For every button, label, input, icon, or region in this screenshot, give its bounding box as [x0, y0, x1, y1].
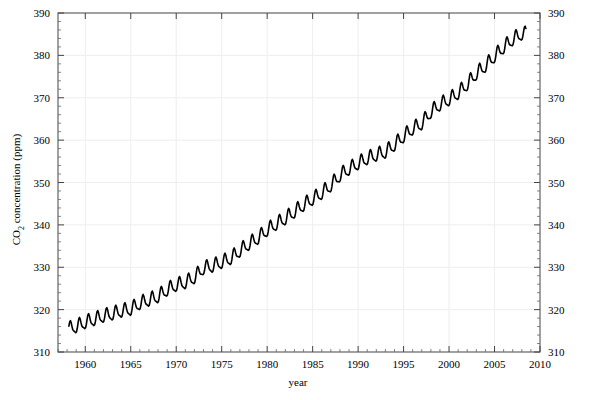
svg-text:320: 320: [548, 304, 565, 316]
svg-text:360: 360: [548, 134, 565, 146]
svg-text:370: 370: [34, 92, 51, 104]
svg-text:1995: 1995: [393, 358, 416, 370]
svg-text:330: 330: [548, 261, 565, 273]
y-axis-title-suffix: concentration (ppm): [10, 134, 22, 226]
svg-text:390: 390: [34, 7, 51, 19]
svg-text:1980: 1980: [256, 358, 279, 370]
chart-figure: 3103103203203303303403403503503603603703…: [0, 0, 596, 400]
svg-text:370: 370: [548, 92, 565, 104]
svg-text:310: 310: [548, 346, 565, 358]
svg-text:1965: 1965: [120, 358, 143, 370]
svg-text:1970: 1970: [165, 358, 188, 370]
svg-text:1985: 1985: [302, 358, 325, 370]
svg-text:340: 340: [548, 219, 565, 231]
svg-text:360: 360: [34, 134, 51, 146]
svg-text:310: 310: [34, 346, 51, 358]
svg-text:320: 320: [34, 304, 51, 316]
data-series-line: [69, 26, 526, 333]
svg-text:340: 340: [34, 219, 51, 231]
svg-text:1960: 1960: [74, 358, 97, 370]
svg-text:380: 380: [548, 49, 565, 61]
svg-text:390: 390: [548, 7, 565, 19]
co2-concentration-line-chart: 3103103203203303303403403503503603603703…: [0, 0, 596, 400]
svg-text:330: 330: [34, 261, 51, 273]
svg-text:1975: 1975: [211, 358, 234, 370]
svg-text:1990: 1990: [347, 358, 370, 370]
svg-text:350: 350: [548, 177, 565, 189]
y-axis-title: CO2 concentration (ppm): [10, 110, 25, 270]
x-axis-title: year: [0, 376, 596, 388]
svg-text:2010: 2010: [529, 358, 552, 370]
y-axis-title-prefix: CO: [10, 230, 22, 245]
svg-text:350: 350: [34, 177, 51, 189]
svg-text:380: 380: [34, 49, 51, 61]
gridlines: [58, 13, 540, 352]
svg-text:2005: 2005: [484, 358, 507, 370]
y-axis-title-subscript: 2: [17, 226, 26, 230]
svg-text:2000: 2000: [438, 358, 461, 370]
